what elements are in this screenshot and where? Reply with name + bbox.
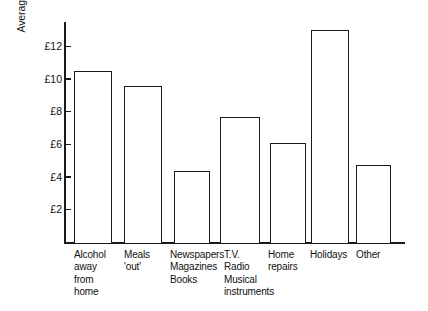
y-axis-title: Average weekly expenditure [14, 0, 28, 58]
bar [270, 143, 306, 244]
bar [174, 171, 210, 244]
bar [311, 30, 349, 244]
bar [220, 117, 260, 244]
y-tick-label-row: £12 [0, 41, 62, 52]
bar-chart: £2£4£6£8£10£12 Alcohol away from homeMea… [0, 0, 428, 311]
y-tick-label: £12 [28, 41, 62, 52]
x-axis-category-label: Alcohol away from home [74, 249, 122, 299]
x-axis-category-label: Meals 'out' [124, 249, 168, 274]
y-tick-mark [65, 111, 71, 112]
y-tick-mark [65, 209, 71, 210]
y-tick-label-row: £4 [0, 172, 62, 183]
y-tick-label: £4 [28, 172, 62, 183]
x-axis-category-label: Holidays [310, 249, 358, 261]
y-tick-label-row: £6 [0, 139, 62, 150]
y-tick-label: £10 [28, 74, 62, 85]
y-tick-label-row: £10 [0, 74, 62, 85]
y-tick-label: £6 [28, 139, 62, 150]
bar [124, 86, 162, 244]
plot-area: £2£4£6£8£10£12 Alcohol away from homeMea… [0, 0, 428, 311]
y-tick-mark [65, 46, 71, 47]
y-tick-mark [65, 78, 71, 79]
y-tick-mark [65, 176, 71, 177]
y-tick-mark [65, 144, 71, 145]
y-tick-label: £8 [28, 106, 62, 117]
bar [74, 71, 112, 244]
x-axis-category-label: Other [356, 249, 396, 261]
y-tick-label-row: £8 [0, 106, 62, 117]
y-tick-label-row: £2 [0, 204, 62, 215]
y-tick-label: £2 [28, 204, 62, 215]
x-axis-category-label: Home repairs [268, 249, 314, 274]
bar [356, 165, 391, 244]
